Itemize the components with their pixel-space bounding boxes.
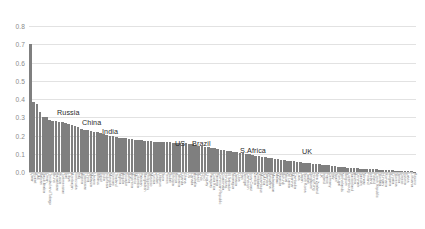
chart-annotation: UK <box>302 147 312 156</box>
chart-annotation: China <box>82 118 101 127</box>
y-axis-tick-label: 0.3 <box>16 114 25 121</box>
plot-area <box>29 26 416 172</box>
chart-annotation: US <box>175 139 185 148</box>
y-axis-tick-label: 0.8 <box>16 23 25 30</box>
chart-annotation: Brazil <box>192 139 211 148</box>
y-axis-tick-label: 0.6 <box>16 59 25 66</box>
y-axis-tick-label: 0.5 <box>16 77 25 84</box>
chart-annotation: Russia <box>57 108 80 117</box>
chart-annotation: India <box>102 127 118 136</box>
x-axis-labels: QatarKuwaitUAEBahrainSaudi ArabiaOmanTri… <box>29 173 416 229</box>
x-axis-label-slot: Kosovo <box>412 173 415 229</box>
y-axis-tick-label: 0.4 <box>16 96 25 103</box>
bar-chart: 0.80.70.60.50.40.30.20.10.0 QatarKuwaitU… <box>0 0 425 229</box>
y-axis-tick-label: 0.7 <box>16 41 25 48</box>
chart-annotation: S.Africa <box>240 146 266 155</box>
x-axis-tick-label: Kosovo <box>412 173 416 185</box>
y-axis-tick-label: 0.1 <box>16 150 25 157</box>
y-axis-tick-label: 0.0 <box>16 169 25 176</box>
y-axis: 0.80.70.60.50.40.30.20.10.0 <box>0 0 29 229</box>
y-axis-tick-label: 0.2 <box>16 132 25 139</box>
bars-layer <box>29 26 416 172</box>
